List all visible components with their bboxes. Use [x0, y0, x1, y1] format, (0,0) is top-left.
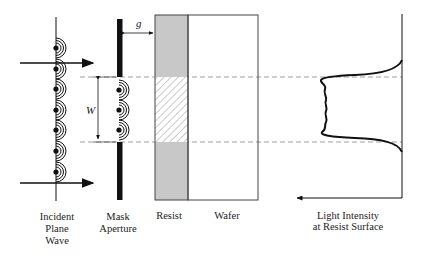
svg-text:Aperture: Aperture: [99, 223, 137, 234]
gap-symbol: g: [136, 17, 142, 29]
wafer: [188, 15, 258, 200]
labels: Incident Plane Wave Mask Aperture Resist…: [40, 210, 384, 246]
gap-dimension: g: [125, 17, 153, 33]
svg-text:Resist: Resist: [156, 210, 182, 221]
svg-text:Mask: Mask: [106, 211, 130, 222]
svg-text:Incident: Incident: [40, 211, 74, 222]
lithography-diagram: W g Incident Plane Wave Mask Aperture Re…: [0, 0, 421, 257]
svg-text:Wafer: Wafer: [214, 210, 240, 221]
svg-text:Plane: Plane: [45, 223, 69, 234]
width-symbol: W: [86, 104, 96, 116]
svg-text:Light Intensity: Light Intensity: [317, 210, 380, 221]
resist-layer: [155, 15, 188, 200]
incident-plane-wave: [20, 17, 93, 201]
svg-text:at Resist Surface: at Resist Surface: [313, 221, 384, 232]
aperture-width-dimension: W: [84, 77, 116, 142]
svg-text:Wave: Wave: [45, 235, 69, 246]
mask-aperture: [116, 19, 129, 200]
intensity-profile: [297, 14, 402, 198]
